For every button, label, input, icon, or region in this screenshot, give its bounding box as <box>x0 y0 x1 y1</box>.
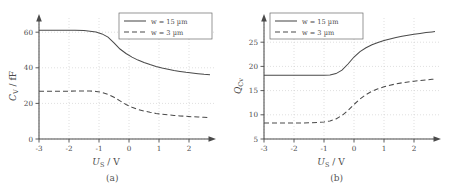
x-axis-title-b-unit: / V <box>332 157 345 167</box>
x-tick-label-a-4: 1 <box>157 144 162 153</box>
x-tick-label-a-3: 0 <box>127 144 132 153</box>
y-axis-a <box>36 14 42 139</box>
x-axis-title-b: US / V <box>317 157 345 169</box>
y-tick-label-b-1: 10 <box>248 110 258 119</box>
grid-horizontal-a <box>39 32 214 139</box>
x-axis-b <box>264 136 441 142</box>
x-axis-title-a-unit: / V <box>107 157 120 167</box>
legend-b[interactable]: w = 15 µm w = 3 µm <box>270 13 363 39</box>
x-tick-label-a-1: -2 <box>65 144 72 153</box>
x-tick-label-a-0: -3 <box>35 144 42 153</box>
chart-a-svg: 0 20 40 60 -3 -2 -1 0 1 2 US / V CV / fF <box>0 0 225 170</box>
x-tick-label-b-3: 0 <box>351 144 356 153</box>
chart-panel-b: 5 10 15 20 25 -3 -2 -1 0 1 2 US / V QCv <box>225 0 449 187</box>
y-tick-label-a-2: 40 <box>24 63 34 72</box>
legend-a-label-1: w = 3 µm <box>151 29 184 37</box>
x-tick-label-b-5: 2 <box>411 144 416 153</box>
x-tick-label-b-1: -2 <box>290 144 297 153</box>
figure-container: 0 20 40 60 -3 -2 -1 0 1 2 US / V CV / fF <box>0 0 449 187</box>
svg-text:QCv: QCv <box>233 78 245 94</box>
legend-a-label-0: w = 15 µm <box>151 18 188 26</box>
y-axis-title-b-sub: Cv <box>237 78 245 87</box>
x-tick-label-a-5: 2 <box>187 144 192 153</box>
x-tick-label-b-4: 1 <box>381 144 386 153</box>
legend-a[interactable]: w = 15 µm w = 3 µm <box>119 13 212 39</box>
curve-b-dashed <box>264 79 435 123</box>
y-tick-label-a-3: 60 <box>24 28 34 37</box>
curve-a-dashed <box>39 91 210 118</box>
y-axis-title-a: CV / fF <box>8 71 20 101</box>
legend-b-label-0: w = 15 µm <box>302 18 339 26</box>
y-tick-label-b-4: 25 <box>248 38 258 47</box>
x-tick-label-b-0: -3 <box>260 144 267 153</box>
svg-text:CV / fF: CV / fF <box>8 71 20 101</box>
y-tick-label-b-3: 20 <box>248 62 258 71</box>
x-axis-a <box>39 136 216 142</box>
panel-caption-b: (b) <box>225 173 449 183</box>
y-tick-label-a-1: 20 <box>24 99 34 108</box>
x-tick-label-a-2: -1 <box>95 144 102 153</box>
y-axis-title-a-unit: / fF <box>8 71 18 86</box>
y-tick-label-a-0: 0 <box>28 135 33 144</box>
y-axis-b <box>260 14 266 139</box>
grid-horizontal-b <box>264 42 439 139</box>
chart-b-svg: 5 10 15 20 25 -3 -2 -1 0 1 2 US / V QCv <box>225 0 449 170</box>
x-axis-title-a: US / V <box>92 157 120 169</box>
y-axis-title-b: QCv <box>233 78 245 94</box>
svg-text:US / V: US / V <box>317 157 345 169</box>
chart-panel-a: 0 20 40 60 -3 -2 -1 0 1 2 US / V CV / fF <box>0 0 225 187</box>
svg-text:US / V: US / V <box>92 157 120 169</box>
legend-b-label-1: w = 3 µm <box>302 29 335 37</box>
panel-caption-a: (a) <box>0 173 225 183</box>
x-tick-label-b-2: -1 <box>320 144 327 153</box>
y-tick-label-b-2: 15 <box>248 86 258 95</box>
y-tick-label-b-0: 5 <box>253 135 258 144</box>
